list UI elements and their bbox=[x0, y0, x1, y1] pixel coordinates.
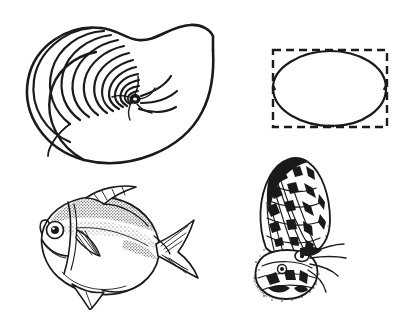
fish-eye-highlight bbox=[52, 227, 54, 229]
fish-caudal-fin bbox=[156, 220, 198, 278]
nautilus-shell-drawing bbox=[8, 8, 230, 170]
butterfly-drawing bbox=[236, 152, 358, 304]
illustration-plate bbox=[0, 0, 412, 318]
inscribed-ellipse bbox=[273, 51, 386, 126]
figure-butterfly bbox=[236, 152, 358, 304]
shell-chamber-septa bbox=[50, 31, 139, 124]
tangent-marks bbox=[273, 86, 386, 126]
figure-nautilus-shell bbox=[8, 8, 230, 170]
fish-drawing bbox=[28, 178, 206, 310]
shell-aperture-lip bbox=[101, 25, 213, 50]
figure-pompano-fish bbox=[28, 178, 206, 310]
fish-eye-pupil bbox=[51, 226, 59, 234]
ellipse-diagram bbox=[262, 40, 400, 138]
butterfly-eyespot-center bbox=[280, 267, 284, 271]
figure-ellipse-in-rectangle bbox=[262, 40, 400, 138]
shell-upper-septa bbox=[139, 76, 177, 112]
